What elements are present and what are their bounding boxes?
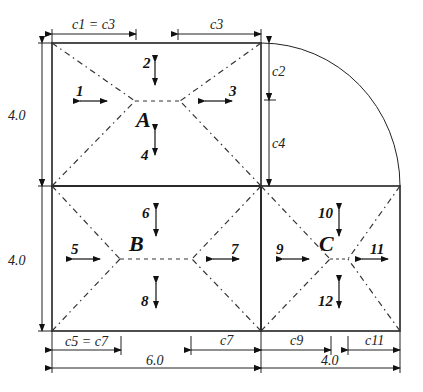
yield-line-diagram: A B C 1 2 3 4 5 6 7 8 9 10 11 12 c1 = c3… <box>0 0 423 392</box>
panel-label-b: B <box>128 231 144 256</box>
dim-bottom-left: c5 = c7 <box>65 334 109 349</box>
edge-number: 9 <box>276 241 284 257</box>
edge-number: 6 <box>142 205 150 221</box>
dim-bottom-mid: c7 <box>220 333 234 348</box>
edge-number: 8 <box>141 293 149 309</box>
dim-top-left: c1 = c3 <box>72 17 115 32</box>
edge-numbers: 1 2 3 4 5 6 7 8 9 10 11 12 <box>71 55 384 309</box>
edge-number: 5 <box>71 241 79 257</box>
panel-label-c: C <box>319 231 334 256</box>
dim-right-upper: c2 <box>272 64 285 79</box>
edge-number: 2 <box>142 55 151 71</box>
dimension-lines <box>38 29 400 373</box>
dim-left-lower: 4.0 <box>8 253 26 268</box>
dim-total-right: 4.0 <box>321 353 339 368</box>
dim-top-right: c3 <box>210 17 223 32</box>
dim-left-upper: 4.0 <box>8 108 26 123</box>
panel-label-a: A <box>134 107 151 132</box>
edge-number: 11 <box>370 241 384 257</box>
dim-c9: c9 <box>290 333 303 348</box>
edge-number: 4 <box>140 147 149 163</box>
dim-c11: c11 <box>365 333 384 348</box>
dim-right-lower: c4 <box>272 136 285 151</box>
edge-number: 12 <box>318 293 334 309</box>
edge-number: 7 <box>231 241 239 257</box>
dim-total-left: 6.0 <box>146 353 164 368</box>
panel-outlines <box>52 43 400 331</box>
dimension-labels: c1 = c3 c3 c2 c4 4.0 4.0 c5 = c7 c7 c9 c… <box>8 17 384 368</box>
edge-number: 10 <box>318 205 334 221</box>
yield-lines <box>52 43 400 331</box>
edge-number: 1 <box>76 83 84 99</box>
edge-number: 3 <box>228 83 237 99</box>
